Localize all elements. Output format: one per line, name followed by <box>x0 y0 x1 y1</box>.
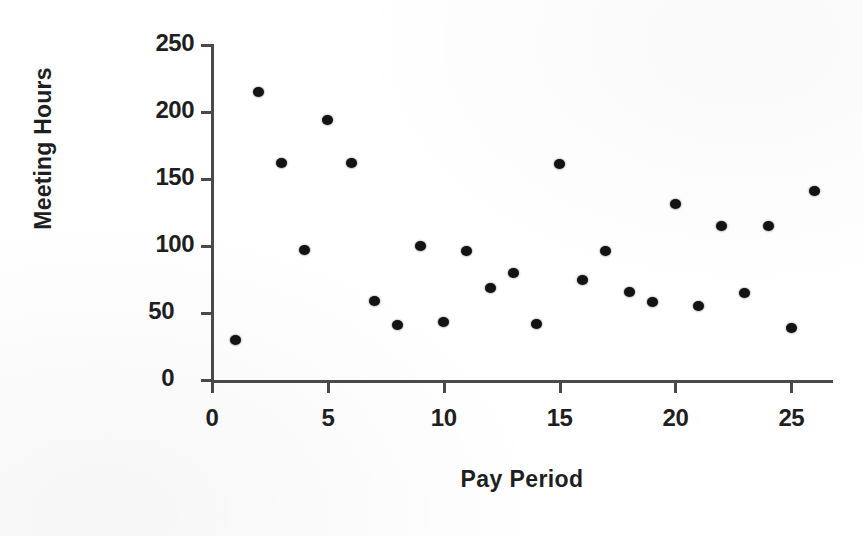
x-axis-tick-label: 15 <box>530 404 590 432</box>
data-point <box>670 199 681 209</box>
data-point <box>508 268 519 278</box>
data-point <box>763 221 774 231</box>
y-axis-tick-label: 150 <box>124 163 194 191</box>
x-axis-tick-label: 0 <box>182 404 242 432</box>
data-point <box>577 275 588 285</box>
x-axis-tick-label: 10 <box>414 404 474 432</box>
data-point <box>369 296 380 306</box>
y-axis-tick-label: 0 <box>104 364 174 392</box>
data-point <box>554 159 565 169</box>
data-point <box>276 158 287 168</box>
x-axis-line <box>211 380 833 383</box>
data-point <box>600 246 611 256</box>
data-point <box>322 115 333 125</box>
data-point <box>392 320 403 330</box>
data-point <box>230 335 241 345</box>
y-axis-tick-label: 100 <box>124 230 194 258</box>
y-axis-line <box>211 44 214 382</box>
x-axis-tick-label: 5 <box>298 404 358 432</box>
x-axis-tick-label: 25 <box>761 404 821 432</box>
y-axis-tick-label: 50 <box>104 297 174 325</box>
x-axis-tick-label: 20 <box>645 404 705 432</box>
x-axis-title: Pay Period <box>212 466 832 493</box>
x-axis-tick <box>559 381 562 393</box>
x-axis-tick <box>443 381 446 393</box>
y-axis-tick-label: 200 <box>124 96 194 124</box>
scan-grain-overlay <box>0 0 863 536</box>
data-point <box>253 87 264 97</box>
data-point <box>438 317 449 327</box>
data-point <box>299 245 310 255</box>
data-point <box>693 301 704 311</box>
data-point <box>346 158 357 168</box>
data-point <box>415 241 426 251</box>
data-point <box>739 288 750 298</box>
y-axis-title: Meeting Hours <box>30 54 57 244</box>
data-point <box>485 283 496 293</box>
x-axis-tick <box>327 381 330 393</box>
data-point <box>786 323 797 333</box>
data-point <box>716 221 727 231</box>
scatter-plot-figure: Meeting Hours Pay Period 050100150200250… <box>0 0 863 536</box>
y-axis-tick <box>201 245 213 248</box>
x-axis-tick <box>211 381 214 393</box>
y-axis-tick <box>201 44 213 47</box>
x-axis-tick <box>674 381 677 393</box>
data-point <box>461 246 472 256</box>
y-axis-tick <box>201 312 213 315</box>
data-point <box>531 319 542 329</box>
y-axis-tick <box>201 111 213 114</box>
data-point <box>809 186 820 196</box>
x-axis-tick <box>790 381 793 393</box>
data-point <box>624 287 635 297</box>
y-axis-tick <box>201 178 213 181</box>
data-point <box>647 297 658 307</box>
y-axis-tick-label: 250 <box>124 29 194 57</box>
